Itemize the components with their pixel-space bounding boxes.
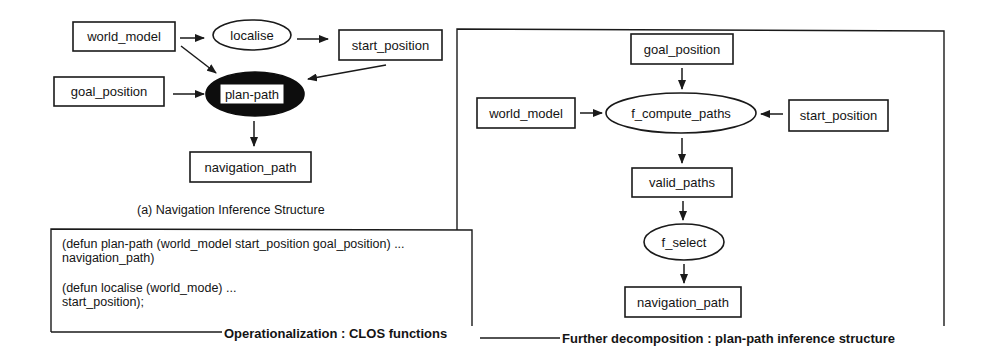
node-goal-position-b: goal_position (631, 34, 733, 64)
node-navigation-path-b: navigation_path (625, 287, 741, 317)
node-label: start_position (800, 108, 877, 123)
node-valid-paths: valid_paths (632, 168, 732, 197)
node-label: navigation_path (205, 160, 297, 175)
edge-start-position-to-plan-path (308, 65, 386, 79)
node-label: world_model (488, 106, 563, 121)
node-goal-position-a: goal_position (54, 77, 164, 106)
code-line-localise-signature: (defun localise (world_mode) ... (62, 281, 236, 295)
caption-navigation-inference-structure: (a) Navigation Inference Structure (137, 203, 325, 217)
caption-further-decomposition: Further decomposition : plan-path infere… (562, 331, 895, 346)
code-line-localise-return: start_position); (62, 295, 144, 309)
code-line-plan-path-signature: (defun plan-path (world_model start_posi… (62, 237, 405, 251)
node-world-model-a: world_model (73, 22, 175, 51)
node-label: goal_position (71, 84, 148, 99)
node-f-compute-paths: f_compute_paths (606, 93, 756, 133)
caption-operationalization: Operationalization : CLOS functions (224, 326, 447, 341)
node-start-position-b: start_position (789, 100, 888, 131)
navigation-inference-structure: world_model localise start_position goal… (54, 20, 442, 217)
node-localise: localise (213, 20, 291, 50)
edge-world-model-to-plan-path (181, 46, 216, 73)
node-start-position-a: start_position (339, 30, 442, 60)
code-line-plan-path-return: navigation_path) (62, 251, 154, 265)
node-label: start_position (352, 38, 429, 53)
node-world-model-b: world_model (477, 98, 575, 128)
diagram-canvas: world_model localise start_position goal… (0, 0, 986, 361)
node-f-select: f_select (644, 224, 724, 260)
plan-path-inference-structure: goal_position world_model f_compute_path… (477, 34, 888, 317)
clos-code-box: (defun plan-path (world_model start_posi… (51, 229, 472, 341)
node-label: f_compute_paths (631, 106, 731, 121)
node-label: world_model (86, 29, 161, 44)
node-label: plan-path (225, 87, 279, 102)
node-label: navigation_path (637, 295, 729, 310)
node-navigation-path-a: navigation_path (190, 152, 311, 182)
node-plan-path: plan-path (206, 72, 304, 116)
node-label: valid_paths (649, 175, 715, 190)
node-label: f_select (662, 235, 707, 250)
node-label: goal_position (644, 42, 721, 57)
node-label: localise (230, 28, 273, 43)
